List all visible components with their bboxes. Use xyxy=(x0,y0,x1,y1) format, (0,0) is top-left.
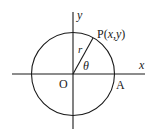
point-p-label: P(x,y) xyxy=(97,27,125,41)
x-axis-label: x xyxy=(138,58,145,72)
radius-label: r xyxy=(78,43,83,55)
unit-circle-diagram: y x O A r θ P(x,y) xyxy=(0,0,155,135)
point-a-label: A xyxy=(116,78,125,92)
point-p-close-paren: ) xyxy=(121,27,125,41)
angle-label: θ xyxy=(83,59,89,73)
origin-label: O xyxy=(59,77,68,91)
y-axis-label: y xyxy=(76,8,83,22)
